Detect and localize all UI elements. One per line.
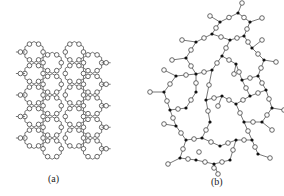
oxygen-atom <box>41 50 46 55</box>
oxygen-atom <box>59 125 64 130</box>
oxygen-atom <box>36 128 41 133</box>
oxygen-atom <box>81 50 86 55</box>
oxygen-atom <box>232 72 237 77</box>
oxygen-atom <box>206 109 211 114</box>
oxygen-atom <box>197 150 202 155</box>
silicon-atom <box>256 74 259 77</box>
oxygen-atom <box>86 117 91 122</box>
oxygen-atom <box>104 146 109 151</box>
oxygen-atom <box>54 111 59 116</box>
oxygen-atom <box>77 122 82 127</box>
oxygen-atom <box>27 106 32 111</box>
oxygen-atom <box>220 160 225 165</box>
silicon-atom <box>248 20 251 23</box>
silicon-atom <box>218 144 221 147</box>
oxygen-atom <box>215 61 220 66</box>
oxygen-atom <box>45 90 50 95</box>
oxygen-atom <box>242 15 247 20</box>
oxygen-atom <box>227 58 232 63</box>
silicon-atom <box>270 106 273 109</box>
oxygen-atom <box>267 97 272 102</box>
silicon-atom <box>194 40 197 43</box>
oxygen-atom <box>204 128 209 133</box>
oxygen-atom <box>68 144 73 149</box>
oxygen-atom <box>45 96 50 101</box>
oxygen-atom <box>36 63 41 68</box>
oxygen-atom <box>95 96 100 101</box>
oxygen-atom <box>81 103 86 108</box>
oxygen-atom <box>95 133 100 138</box>
silicon-atom <box>240 78 243 81</box>
oxygen-atom <box>68 106 73 111</box>
silicon-atom <box>234 62 237 65</box>
oxygen-atom <box>240 1 245 6</box>
oxygen-atom <box>104 103 109 108</box>
oxygen-atom <box>68 128 73 133</box>
oxygen-atom <box>148 90 153 95</box>
oxygen-atom <box>180 38 185 43</box>
oxygen-atom <box>253 145 258 150</box>
oxygen-atom <box>18 136 23 141</box>
oxygen-atom <box>54 117 59 122</box>
oxygen-atom <box>86 74 91 79</box>
oxygen-atom <box>86 90 91 95</box>
panel-a-crystalline-network <box>16 42 111 160</box>
oxygen-atom <box>68 58 73 63</box>
silicon-atom <box>236 11 239 14</box>
oxygen-atom <box>68 122 73 127</box>
oxygen-atom <box>95 139 100 144</box>
oxygen-atom <box>184 73 189 78</box>
oxygen-atom <box>41 125 46 130</box>
oxygen-atom <box>41 114 46 119</box>
panel-a-caption: (a) <box>48 173 59 184</box>
oxygen-atom <box>36 101 41 106</box>
oxygen-atom <box>36 42 41 47</box>
silicon-atom <box>212 162 215 165</box>
oxygen-atom <box>192 137 197 142</box>
oxygen-atom <box>41 60 46 65</box>
oxygen-atom <box>54 90 59 95</box>
oxygen-atom <box>68 85 73 90</box>
panel-b-amorphous-network <box>148 1 284 177</box>
oxygen-atom <box>54 53 59 58</box>
oxygen-atom <box>260 38 265 43</box>
oxygen-atom <box>63 114 68 119</box>
oxygen-atom <box>45 133 50 138</box>
oxygen-atom <box>54 133 59 138</box>
oxygen-atom <box>270 128 275 133</box>
oxygen-atom <box>227 15 232 20</box>
oxygen-atom <box>45 117 50 122</box>
oxygen-atom <box>36 79 41 84</box>
oxygen-atom <box>189 48 194 53</box>
oxygen-atom <box>81 114 86 119</box>
oxygen-atom <box>227 98 232 103</box>
oxygen-atom <box>265 113 270 118</box>
oxygen-atom <box>41 82 46 87</box>
oxygen-atom <box>68 79 73 84</box>
oxygen-atom <box>41 93 46 98</box>
oxygen-atom <box>36 106 41 111</box>
oxygen-atom <box>259 66 264 71</box>
oxygen-atom <box>86 53 91 58</box>
oxygen-atom <box>59 82 64 87</box>
silicon-atom <box>260 120 263 123</box>
oxygen-atom <box>27 58 32 63</box>
oxygen-atom <box>68 101 73 106</box>
oxygen-atom <box>54 68 59 73</box>
oxygen-atom <box>45 68 50 73</box>
oxygen-atom <box>95 154 100 159</box>
oxygen-atom <box>59 146 64 151</box>
silicon-atom <box>220 54 223 57</box>
oxygen-atom <box>104 60 109 65</box>
oxygen-atom <box>95 68 100 73</box>
oxygen-atom <box>251 120 256 125</box>
oxygen-atom <box>18 114 23 119</box>
oxygen-atom <box>27 79 32 84</box>
oxygen-atom <box>81 136 86 141</box>
oxygen-atom <box>45 154 50 159</box>
oxygen-atom <box>246 129 251 134</box>
oxygen-atom <box>81 60 86 65</box>
silicon-atom <box>220 94 223 97</box>
oxygen-atom <box>256 91 261 96</box>
oxygen-atom <box>86 111 91 116</box>
